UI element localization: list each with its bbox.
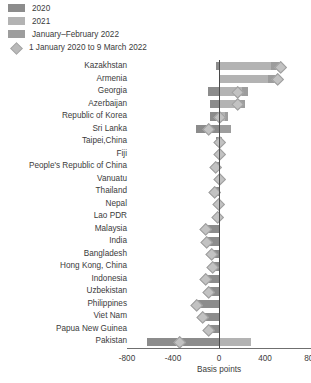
category-label: Thailand xyxy=(96,185,127,198)
table-row: People's Republic of China xyxy=(0,160,311,173)
bar-segment xyxy=(219,125,231,133)
category-label: Republic of Korea xyxy=(62,110,127,123)
bar-segment xyxy=(208,87,220,95)
table-row: Hong Kong, China xyxy=(0,260,311,273)
table-row: Armenia xyxy=(0,73,311,86)
axis-tick-label: 400 xyxy=(258,354,272,364)
table-row: India xyxy=(0,235,311,248)
x-axis-ticks: -800-4000400800 xyxy=(127,349,311,365)
bar-segment xyxy=(219,338,251,346)
legend-item: 2020 xyxy=(8,2,268,14)
table-row: Republic of Korea xyxy=(0,110,311,123)
bar-segment xyxy=(219,62,271,70)
category-label: Philippines xyxy=(87,298,127,311)
square-swatch-icon xyxy=(8,17,25,25)
legend-item: January–February 2022 xyxy=(8,28,268,40)
legend-item-label: 2020 xyxy=(32,4,50,13)
bar-segment xyxy=(210,100,219,108)
table-row: Taipei,China xyxy=(0,135,311,148)
category-label: India xyxy=(109,235,127,248)
plot-area: KazakhstanArmeniaGeorgiaAzerbaijanRepubl… xyxy=(0,60,311,350)
table-row: Kazakhstan xyxy=(0,60,311,73)
category-label: Uzbekistan xyxy=(86,285,127,298)
table-row: Georgia xyxy=(0,85,311,98)
category-label: Bangladesh xyxy=(84,248,127,261)
table-row: Philippines xyxy=(0,298,311,311)
diamond-marker-icon xyxy=(11,42,22,53)
table-row: Bangladesh xyxy=(0,248,311,261)
category-label: Fiji xyxy=(117,148,127,161)
table-row: Azerbaijan xyxy=(0,98,311,111)
axis-tick-label: -400 xyxy=(165,354,181,364)
table-row: Indonesia xyxy=(0,273,311,286)
category-label: Taipei,China xyxy=(82,135,127,148)
axis-tick-label: -800 xyxy=(119,354,135,364)
chart-legend: 2020 2021 January–February 2022 1 Januar… xyxy=(8,2,268,54)
legend-item: 1 January 2020 to 9 March 2022 xyxy=(8,41,268,53)
legend-item-label: January–February 2022 xyxy=(32,30,119,39)
legend-item: 2021 xyxy=(8,15,268,27)
category-label: Indonesia xyxy=(91,273,127,286)
category-label: Nepal xyxy=(106,198,127,211)
chart-container: 2020 2021 January–February 2022 1 Januar… xyxy=(0,0,311,383)
table-row: Fiji xyxy=(0,148,311,161)
category-label: Kazakhstan xyxy=(84,60,127,73)
table-row: Malaysia xyxy=(0,223,311,236)
category-label: Georgia xyxy=(98,85,127,98)
bar-segment xyxy=(219,75,268,83)
axis-tick-label: 800 xyxy=(304,354,311,364)
category-label: Azerbaijan xyxy=(88,98,127,111)
legend-item-label: 1 January 2020 to 9 March 2022 xyxy=(29,43,147,52)
category-label: Vanuatu xyxy=(97,173,127,186)
table-row: Nepal xyxy=(0,198,311,211)
table-row: Thailand xyxy=(0,185,311,198)
square-swatch-icon xyxy=(8,30,25,38)
table-row: Papua New Guinea xyxy=(0,323,311,336)
category-label: Malaysia xyxy=(95,223,127,236)
table-row: Lao PDR xyxy=(0,210,311,223)
category-label: Armenia xyxy=(97,73,128,86)
category-label: Hong Kong, China xyxy=(60,260,127,273)
category-label: People's Republic of China xyxy=(29,160,127,173)
category-label: Pakistan xyxy=(96,335,127,348)
x-axis-label: Basis points xyxy=(127,365,311,374)
category-label: Viet Nam xyxy=(93,310,127,323)
category-label: Papua New Guinea xyxy=(56,323,127,336)
table-row: Pakistan xyxy=(0,335,311,348)
category-label: Sri Lanka xyxy=(92,123,127,136)
zero-axis-line xyxy=(219,60,220,348)
square-swatch-icon xyxy=(8,4,25,12)
table-row: Viet Nam xyxy=(0,310,311,323)
table-row: Uzbekistan xyxy=(0,285,311,298)
category-label: Lao PDR xyxy=(94,210,127,223)
legend-item-label: 2021 xyxy=(32,17,50,26)
axis-tick-label: 0 xyxy=(217,354,222,364)
table-row: Sri Lanka xyxy=(0,123,311,136)
table-row: Vanuatu xyxy=(0,173,311,186)
